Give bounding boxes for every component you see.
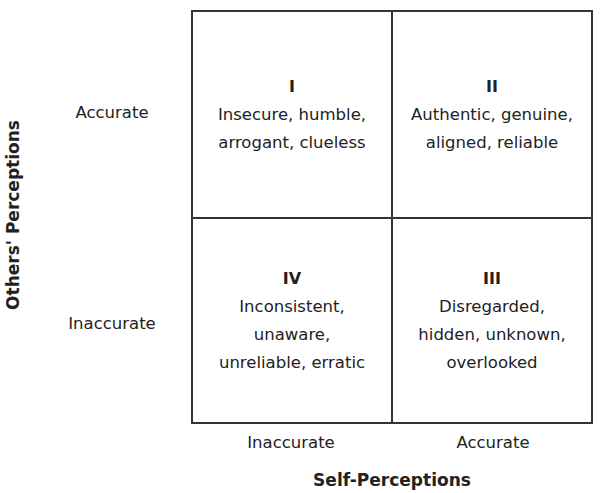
quadrant-text-line: hidden, unknown, <box>418 321 565 349</box>
column-label-inaccurate: Inaccurate <box>191 433 391 452</box>
row-label-inaccurate: Inaccurate <box>57 314 167 333</box>
matrix-grid: I Insecure, humble, arrogant, clueless I… <box>191 10 593 424</box>
quadrant-text-line: Insecure, humble, <box>218 101 366 129</box>
row-label-accurate: Accurate <box>57 103 167 122</box>
quadrant-text-line: arrogant, clueless <box>218 129 365 157</box>
quadrant-i: I Insecure, humble, arrogant, clueless <box>193 12 391 217</box>
quadrant-numeral: III <box>483 265 501 293</box>
quadrant-text-line: overlooked <box>446 349 537 377</box>
quadrant-text-line: unreliable, erratic <box>219 349 365 377</box>
quadrant-ii: II Authentic, genuine, aligned, reliable <box>393 12 591 217</box>
quadrant-iv: IV Inconsistent, unaware, unreliable, er… <box>193 219 391 422</box>
x-axis-label: Self-Perceptions <box>191 470 593 490</box>
quadrant-numeral: II <box>486 73 498 101</box>
quadrant-text-line: Authentic, genuine, <box>411 101 573 129</box>
quadrant-iii: III Disregarded, hidden, unknown, overlo… <box>393 219 591 422</box>
column-label-accurate: Accurate <box>393 433 593 452</box>
y-axis-label: Others' Perceptions <box>3 120 23 310</box>
quadrant-numeral: I <box>289 73 295 101</box>
quadrant-text-line: Disregarded, <box>439 293 545 321</box>
quadrant-text-line: unaware, <box>254 321 330 349</box>
quadrant-text-line: Inconsistent, <box>239 293 345 321</box>
quadrant-numeral: IV <box>283 265 301 293</box>
quadrant-text-line: aligned, reliable <box>426 129 558 157</box>
